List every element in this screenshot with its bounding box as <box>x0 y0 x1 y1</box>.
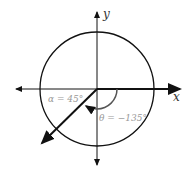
theta-label: θ = −135° <box>99 113 147 123</box>
x-axis-label: x <box>173 90 180 104</box>
alpha-label: α = 45° <box>48 94 83 104</box>
theta-arc <box>86 89 117 109</box>
y-axis-label: y <box>102 7 110 21</box>
unit-circle-diagram: y x α = 45° θ = −135° <box>0 0 188 178</box>
